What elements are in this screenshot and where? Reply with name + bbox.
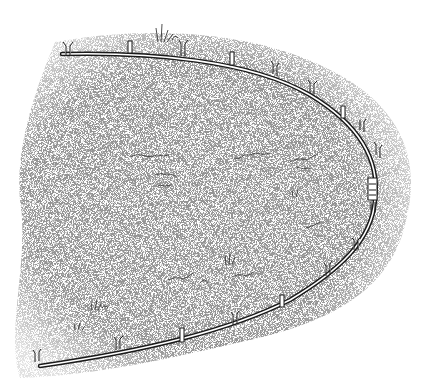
hose-illustration <box>0 0 429 389</box>
